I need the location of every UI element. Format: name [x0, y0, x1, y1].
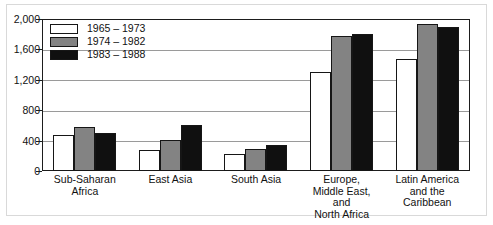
legend-label: 1983 – 1988 [87, 49, 145, 60]
gridline [43, 141, 469, 142]
gridline [43, 80, 469, 81]
gridline [43, 111, 469, 112]
x-tick-label-line: Caribbean [374, 197, 480, 209]
legend-item: 1974 – 1982 [50, 36, 145, 47]
x-tick-label-line: Latin America [374, 174, 480, 186]
x-tick-label-line: Africa [32, 186, 138, 198]
y-tick-label: 400 [0, 135, 40, 146]
bar-chart-figure: 04008001,2001,6002,000 1965 – 19731974 –… [0, 0, 493, 225]
chart-legend: 1965 – 19731974 – 19821983 – 1988 [50, 23, 145, 60]
legend-item: 1983 – 1988 [50, 49, 145, 60]
y-tick-label: 1,200 [0, 75, 40, 86]
legend-swatch-icon [50, 50, 78, 60]
legend-label: 1965 – 1973 [87, 23, 145, 34]
x-tick-label-line: North Africa [289, 209, 395, 221]
y-tick-mark [36, 171, 42, 172]
legend-label: 1974 – 1982 [87, 36, 145, 47]
legend-swatch-icon [50, 37, 78, 47]
x-tick-label: Latin Americaand theCaribbean [374, 174, 480, 209]
y-tick-label: 800 [0, 105, 40, 116]
y-tick-label: 1,600 [0, 44, 40, 55]
y-tick-label: 2,000 [0, 14, 40, 25]
x-axis-labels: Sub-SaharanAfricaEast AsiaSouth AsiaEuro… [42, 174, 470, 224]
legend-item: 1965 – 1973 [50, 23, 145, 34]
legend-swatch-icon [50, 24, 78, 34]
